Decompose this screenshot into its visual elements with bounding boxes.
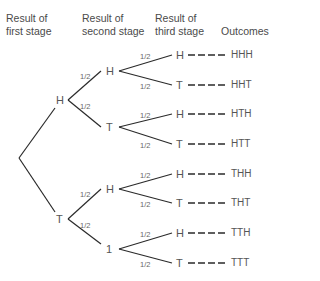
prob-3-3: 1/2 — [140, 111, 150, 120]
outcome-4: HTT — [231, 138, 250, 150]
stage1-node-h: H — [56, 94, 64, 106]
prob-3-2: 1/2 — [140, 82, 150, 91]
stage3-node-4: T — [176, 138, 183, 150]
outcome-5: THH — [231, 168, 252, 180]
stage3-node-8: T — [176, 257, 183, 269]
stage2-node-hh: H — [106, 65, 114, 77]
stage2-node-ht: T — [106, 121, 113, 133]
prob-3-5: 1/2 — [140, 171, 150, 180]
prob-3-7: 1/2 — [140, 230, 150, 239]
outcome-8: TTT — [231, 257, 249, 269]
outcome-3: HTH — [231, 108, 252, 120]
outcome-7: TTH — [231, 227, 250, 239]
prob-3-6: 1/2 — [140, 200, 150, 209]
stage3-node-2: T — [176, 79, 183, 91]
outcome-2: HHT — [231, 79, 252, 91]
prob-h-h: 1/2 — [80, 72, 90, 81]
prob-t-t: 1/2 — [80, 221, 90, 230]
stage2-node-tt: 1 — [106, 243, 112, 255]
stage3-node-3: H — [176, 108, 184, 120]
stage3-node-7: H — [176, 227, 184, 239]
stage3-node-5: H — [176, 168, 184, 180]
outcome-1: HHH — [231, 49, 253, 61]
stage2-node-th: H — [106, 183, 114, 195]
stage3-node-6: T — [176, 197, 183, 209]
stage1-node-t: T — [56, 213, 63, 225]
stage3-node-1: H — [176, 49, 184, 61]
prob-3-1: 1/2 — [140, 52, 150, 61]
prob-h-t: 1/2 — [80, 102, 90, 111]
outcome-6: THT — [231, 197, 250, 209]
prob-t-h: 1/2 — [80, 190, 90, 199]
prob-3-8: 1/2 — [140, 260, 150, 269]
prob-3-4: 1/2 — [140, 141, 150, 150]
